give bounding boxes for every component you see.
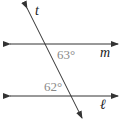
transversal-t (27, 8, 82, 118)
label-t: t (35, 3, 40, 18)
angle-label-63: 63° (57, 47, 75, 62)
label-m: m (100, 45, 110, 60)
geometry-diagram: t m ℓ 63° 62° (0, 0, 129, 127)
label-l: ℓ (100, 97, 106, 112)
angle-label-62: 62° (44, 79, 62, 94)
